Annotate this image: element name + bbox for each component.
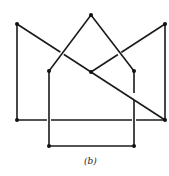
node-apex [89, 13, 93, 17]
graph-diagram: (b) [0, 0, 169, 176]
node-outer-top-left [15, 22, 19, 26]
edge-apex-right [91, 15, 134, 71]
node-bottom-right [132, 144, 136, 148]
edge-apex-left [49, 15, 91, 71]
edge-outer-right-to-center [91, 24, 165, 72]
node-inner-right [132, 69, 136, 73]
node-center [89, 70, 93, 74]
node-inner-left [47, 69, 51, 73]
node-outer-bottom-left [15, 118, 19, 122]
node-outer-top-right [163, 22, 167, 26]
edges [17, 15, 165, 146]
node-bottom-left [47, 144, 51, 148]
nodes [15, 13, 167, 148]
node-outer-bottom-right [163, 118, 167, 122]
figure-caption: (b) [84, 156, 97, 166]
